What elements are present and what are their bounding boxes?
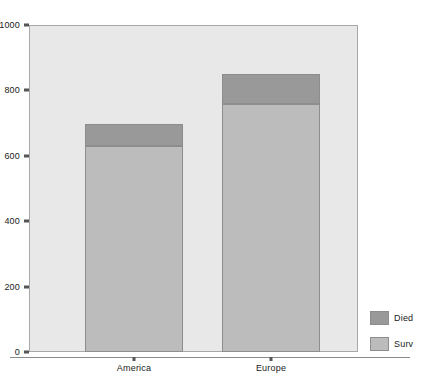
y-axis-tick-mark xyxy=(24,89,29,92)
x-axis-tick-mark xyxy=(270,357,273,361)
bar-segment-surv[interactable] xyxy=(222,104,320,352)
y-axis-tick-mark xyxy=(24,285,29,288)
y-axis-tick-label: 600 xyxy=(4,151,20,161)
y-axis: 02004006008001000 xyxy=(0,0,29,390)
stacked-bar-chart: 02004006008001000 DiedSurv AmericaEurope xyxy=(0,0,429,390)
y-axis-tick-label: 200 xyxy=(4,282,20,292)
legend-item[interactable]: Surv xyxy=(370,331,429,357)
x-axis-line xyxy=(10,357,410,358)
legend-swatch-icon xyxy=(370,311,389,325)
bar-group[interactable] xyxy=(85,25,183,352)
chart-legend: DiedSurv xyxy=(370,305,429,357)
y-axis-tick-label: 400 xyxy=(4,216,20,226)
y-axis-tick-mark xyxy=(24,220,29,223)
legend-label: Surv xyxy=(394,339,413,349)
x-axis-tick-label: America xyxy=(117,363,151,373)
x-axis-tick-mark xyxy=(133,357,136,361)
y-axis-tick-label: 0 xyxy=(15,347,20,357)
bar-group[interactable] xyxy=(222,25,320,352)
x-axis-tick-label: Europe xyxy=(256,363,286,373)
bar-segment-surv[interactable] xyxy=(85,146,183,352)
y-axis-tick-mark xyxy=(24,351,29,354)
legend-label: Died xyxy=(394,313,413,323)
legend-swatch-icon xyxy=(370,337,389,351)
y-axis-tick-label: 800 xyxy=(4,85,20,95)
y-axis-tick-mark xyxy=(24,24,29,27)
bar-segment-died[interactable] xyxy=(85,124,183,146)
legend-item[interactable]: Died xyxy=(370,305,429,331)
bar-segment-died[interactable] xyxy=(222,74,320,104)
y-axis-tick-mark xyxy=(24,154,29,157)
y-axis-tick-label: 1000 xyxy=(0,20,20,30)
